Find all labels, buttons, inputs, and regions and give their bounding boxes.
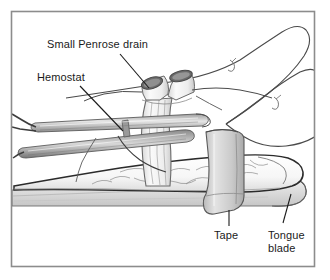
medical-illustration-figure: Small Penrose drain Hemostat Tape Tongue… (0, 0, 330, 280)
tape-shape (203, 130, 244, 215)
label-small-penrose-drain: Small Penrose drain (47, 38, 148, 51)
label-tongue-blade-line1: Tongue (268, 229, 305, 241)
label-hemostat: Hemostat (37, 71, 85, 84)
label-tongue-blade: Tongueblade (268, 229, 316, 254)
label-tape: Tape (214, 229, 238, 242)
label-tongue-blade-line2: blade (268, 242, 295, 254)
